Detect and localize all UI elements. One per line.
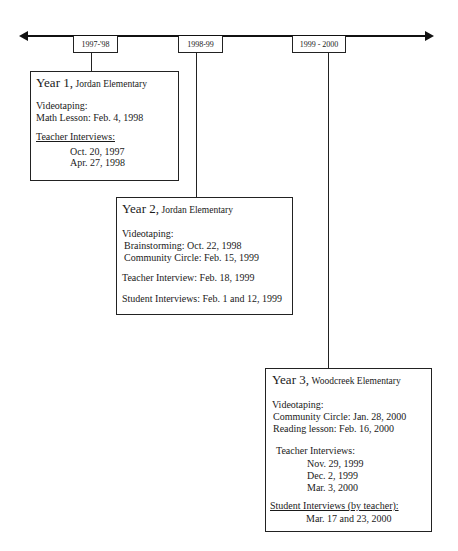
year3-videotaping-item: Community Circle: Jan. 28, 2000 [273, 411, 406, 423]
connector-year3 [328, 53, 329, 368]
period-tag-1997-98: 1997-'98 [73, 36, 118, 53]
year3-videotaping-heading: Videotaping: [272, 399, 324, 411]
year3-school: Woodcreek Elementary [311, 376, 400, 386]
connector-year1 [91, 53, 92, 71]
timeline-right-arrow-icon [425, 31, 434, 41]
year3-teacher-date: Dec. 2, 1999 [307, 470, 358, 482]
year1-title: Year 1, Jordan Elementary [36, 77, 147, 90]
year2-videotaping-item: Community Circle: Feb. 15, 1999 [124, 252, 259, 264]
year1-label: Year 1, [36, 75, 73, 90]
period-label: 1999 - 2000 [300, 40, 339, 49]
year3-label: Year 3, [272, 372, 309, 387]
year3-teacher-date: Nov. 29, 1999 [307, 458, 364, 470]
period-label: 1998-99 [187, 40, 214, 49]
year2-label: Year 2, [122, 201, 159, 216]
year2-student-interviews: Student Interviews: Feb. 1 and 12, 1999 [122, 293, 282, 305]
year3-videotaping-item: Reading lesson: Feb. 16, 2000 [273, 423, 394, 435]
period-tag-1998-99: 1998-99 [178, 36, 223, 53]
year3-student-date: Mar. 17 and 23, 2000 [306, 513, 392, 525]
year2-title: Year 2, Jordan Elementary [122, 203, 233, 216]
year1-videotaping-item: Math Lesson: Feb. 4, 1998 [36, 112, 143, 124]
year2-school: Jordan Elementary [161, 205, 233, 215]
year1-teacher-heading: Teacher Interviews: [36, 131, 115, 143]
period-label: 1997-'98 [81, 40, 109, 49]
year1-teacher-date: Apr. 27, 1998 [70, 157, 125, 169]
connector-year2 [196, 53, 197, 197]
year2-videotaping-item: Brainstorming: Oct. 22, 1998 [124, 240, 242, 252]
year2-videotaping-heading: Videotaping: [122, 228, 174, 240]
year3-teacher-heading: Teacher Interviews: [276, 445, 355, 457]
year3-title: Year 3, Woodcreek Elementary [272, 374, 401, 387]
year3-teacher-date: Mar. 3, 2000 [307, 482, 358, 494]
year1-videotaping-heading: Videotaping: [36, 100, 88, 112]
year3-student-heading: Student Interviews (by teacher): [270, 500, 399, 512]
year2-teacher-interview: Teacher Interview: Feb. 18, 1999 [122, 272, 255, 284]
year1-school: Jordan Elementary [75, 79, 147, 89]
period-tag-1999-2000: 1999 - 2000 [292, 36, 346, 53]
